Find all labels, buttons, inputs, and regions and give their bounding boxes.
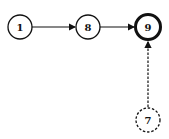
node-8-label: 8 (85, 22, 92, 33)
node-1: 1 (8, 15, 32, 39)
node-1-label: 1 (17, 22, 24, 33)
node-7-label: 7 (145, 115, 152, 126)
node-7: 7 (136, 108, 160, 132)
node-9-label: 9 (145, 22, 152, 33)
graph-canvas: 1 8 9 7 (0, 0, 169, 139)
node-9: 9 (136, 15, 161, 40)
node-8: 8 (76, 15, 100, 39)
